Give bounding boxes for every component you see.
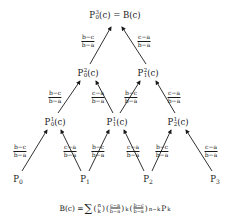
binomial-coefficient: nk [97,203,101,214]
bernstein-formula: B(c) = ∑ (nk) (c−ab−a)k (b−cb−a)n−k Pk [59,202,170,215]
arrows-layer [0,0,231,220]
weight-right-p11-p02: c−ab−a [92,90,105,104]
node-p3: P3 [210,175,220,186]
weight-right-p1-p01: c−ab−a [64,144,77,158]
formula-fraction-1: c−ab−a [110,203,120,214]
sigma-symbol: ∑ [85,202,93,215]
weight-left-p2-p21: b−cb−a [155,144,168,158]
weight-left-p01-p02: b−cb−a [48,90,61,104]
weight-left-p11-p12: b−cb−a [124,90,137,104]
node-p02: P20(c) [77,68,98,78]
weight-right-p3-p21: c−ab−a [205,144,218,158]
formula-lhs: B(c) = [59,204,83,213]
node-p21: P12(c) [167,117,188,127]
weight-right-top: c−ab−a [138,34,151,48]
node-p12: P21(c) [137,68,158,78]
node-p1: P1 [80,175,90,186]
weight-left-p0-p01: b−cb−a [13,144,26,158]
node-p01: P10(c) [44,117,65,127]
weight-left-p1-p11: b−cb−a [91,144,104,158]
weight-left-top: b−cb−a [81,34,94,48]
weight-right-p2-p11: c−ab−a [127,144,140,158]
formula-fraction-2: b−cb−a [133,203,143,214]
weight-right-p21-p12: c−ab−a [168,90,181,104]
node-p11: P11(c) [106,117,127,127]
node-p2: P2 [143,175,153,186]
node-p03-bc: P30(c) = B(c) [89,10,140,20]
node-p0: P0 [13,175,23,186]
